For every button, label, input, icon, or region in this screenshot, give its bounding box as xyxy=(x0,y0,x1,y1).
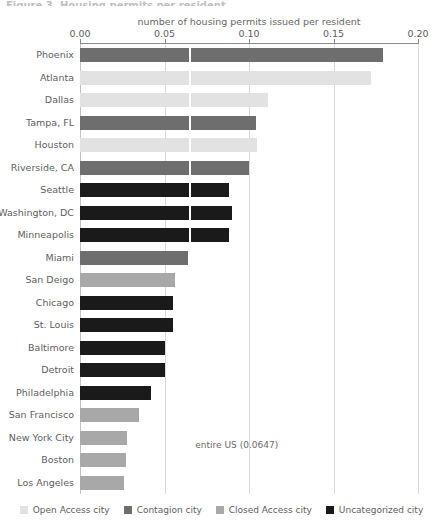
plot-area: PhoenixAtlantaDallasTampa, FLHoustonRive… xyxy=(80,44,418,494)
bar xyxy=(80,93,268,107)
x-tick-label: 0.20 xyxy=(407,28,428,39)
category-label: Houston xyxy=(0,138,74,152)
bar xyxy=(80,116,256,130)
reference-line-label: entire US (0.0647) xyxy=(195,440,278,450)
bar xyxy=(80,138,257,152)
category-label: San Deigo xyxy=(0,273,74,287)
category-label: San Francisco xyxy=(0,408,74,422)
bar xyxy=(80,408,139,422)
legend-swatch-icon xyxy=(216,506,224,514)
category-label: Dallas xyxy=(0,93,74,107)
category-label: Detroit xyxy=(0,363,74,377)
legend-swatch-icon xyxy=(326,506,334,514)
bar xyxy=(80,183,229,197)
bar xyxy=(80,431,127,445)
figure-title-cutoff: Figure 3. Housing permits per resident xyxy=(6,0,306,6)
chart-row: Detroit xyxy=(80,359,418,382)
category-label: Minneapolis xyxy=(0,228,74,242)
category-label: Tampa, FL xyxy=(0,116,74,130)
chart-row: Miami xyxy=(80,247,418,270)
x-tick-label: 0.10 xyxy=(238,28,259,39)
chart-legend: Open Access cityContagion cityClosed Acc… xyxy=(0,505,443,515)
x-tick-label: 0.15 xyxy=(323,28,344,39)
category-label: Baltimore xyxy=(0,341,74,355)
category-label: Boston xyxy=(0,453,74,467)
bar xyxy=(80,206,232,220)
category-label: Atlanta xyxy=(0,71,74,85)
x-tick-label: 0.00 xyxy=(69,28,90,39)
bar xyxy=(80,251,188,265)
x-axis-title: number of housing permits issued per res… xyxy=(80,16,418,27)
housing-permits-chart-figure: Figure 3. Housing permits per resident n… xyxy=(0,0,443,530)
chart-row: St. Louis xyxy=(80,314,418,337)
gridline xyxy=(418,44,419,494)
legend-item-uncategorized[interactable]: Uncategorized city xyxy=(326,505,423,515)
bar xyxy=(80,48,383,62)
legend-item-closed[interactable]: Closed Access city xyxy=(216,505,312,515)
figure-title-text: Figure 3. Housing permits per resident xyxy=(6,0,226,6)
chart-row: Baltimore xyxy=(80,337,418,360)
reference-line-entire-us xyxy=(189,44,191,494)
category-label: Chicago xyxy=(0,296,74,310)
category-label: Riverside, CA xyxy=(0,161,74,175)
category-label: Miami xyxy=(0,251,74,265)
chart-row: Phoenix xyxy=(80,44,418,67)
category-label: St. Louis xyxy=(0,318,74,332)
bar xyxy=(80,386,151,400)
chart-row: Los Angeles xyxy=(80,472,418,495)
chart-row: Dallas xyxy=(80,89,418,112)
bar xyxy=(80,161,249,175)
legend-swatch-icon xyxy=(20,506,28,514)
bar xyxy=(80,341,165,355)
legend-swatch-icon xyxy=(124,506,132,514)
legend-label: Contagion city xyxy=(137,505,202,515)
legend-item-open[interactable]: Open Access city xyxy=(20,505,110,515)
bar xyxy=(80,363,165,377)
chart-row: San Francisco xyxy=(80,404,418,427)
chart-row: Tampa, FL xyxy=(80,112,418,135)
bar xyxy=(80,318,173,332)
legend-item-contagion[interactable]: Contagion city xyxy=(124,505,202,515)
chart-row: Seattle xyxy=(80,179,418,202)
chart-row: Houston xyxy=(80,134,418,157)
chart-row: Boston xyxy=(80,449,418,472)
category-label: Phoenix xyxy=(0,48,74,62)
bar xyxy=(80,296,173,310)
chart-row: Philadelphia xyxy=(80,382,418,405)
legend-label: Uncategorized city xyxy=(339,505,423,515)
chart-row: Washington, DC xyxy=(80,202,418,225)
legend-label: Closed Access city xyxy=(229,505,312,515)
chart-row: Chicago xyxy=(80,292,418,315)
bar xyxy=(80,273,175,287)
category-label: New York City xyxy=(0,431,74,445)
chart-row: Minneapolis xyxy=(80,224,418,247)
category-label: Washington, DC xyxy=(0,206,74,220)
chart-row: Atlanta xyxy=(80,67,418,90)
category-label: Seattle xyxy=(0,183,74,197)
chart-row: Riverside, CA xyxy=(80,157,418,180)
x-tick-label: 0.05 xyxy=(154,28,175,39)
category-label: Philadelphia xyxy=(0,386,74,400)
bar xyxy=(80,228,229,242)
chart-row: San Deigo xyxy=(80,269,418,292)
legend-label: Open Access city xyxy=(33,505,110,515)
category-label: Los Angeles xyxy=(0,476,74,490)
bar xyxy=(80,476,124,490)
bar xyxy=(80,71,371,85)
bar xyxy=(80,453,126,467)
